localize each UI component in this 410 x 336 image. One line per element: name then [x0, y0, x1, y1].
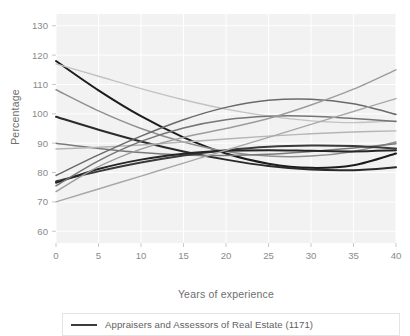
legend-line-swatch — [71, 324, 97, 326]
y-axis-ticks: 60708090100110120130 — [32, 20, 56, 237]
x-tick-label: 35 — [348, 250, 359, 261]
x-axis-label-wrapper: Years of experience — [56, 284, 396, 302]
y-axis-label: Percentage — [9, 89, 21, 145]
y-tick-label: 110 — [33, 79, 48, 90]
legend-item-label: Appraisers and Assessors of Real Estate … — [105, 319, 313, 330]
x-axis-ticks: 0510152025303540 — [53, 243, 401, 261]
x-tick-label: 25 — [263, 250, 274, 261]
y-tick-label: 100 — [32, 108, 48, 119]
x-tick-label: 5 — [96, 250, 101, 261]
y-tick-label: 130 — [32, 20, 48, 31]
x-axis-label: Years of experience — [178, 288, 274, 300]
y-tick-label: 120 — [32, 50, 48, 61]
y-axis-label-wrapper: Percentage — [5, 77, 23, 157]
x-tick-label: 0 — [53, 250, 58, 261]
x-tick-label: 20 — [221, 250, 232, 261]
y-tick-label: 80 — [37, 167, 48, 178]
y-tick-label: 70 — [37, 196, 48, 207]
x-tick-label: 30 — [306, 250, 317, 261]
x-tick-label: 10 — [136, 250, 147, 261]
x-tick-label: 15 — [178, 250, 189, 261]
y-tick-label: 60 — [37, 226, 48, 237]
chart-legend: Appraisers and Assessors of Real Estate … — [62, 313, 400, 336]
x-tick-label: 40 — [391, 250, 402, 261]
y-tick-label: 90 — [37, 138, 48, 149]
chart-figure: 0510152025303540 60708090100110120130 Pe… — [0, 0, 410, 336]
